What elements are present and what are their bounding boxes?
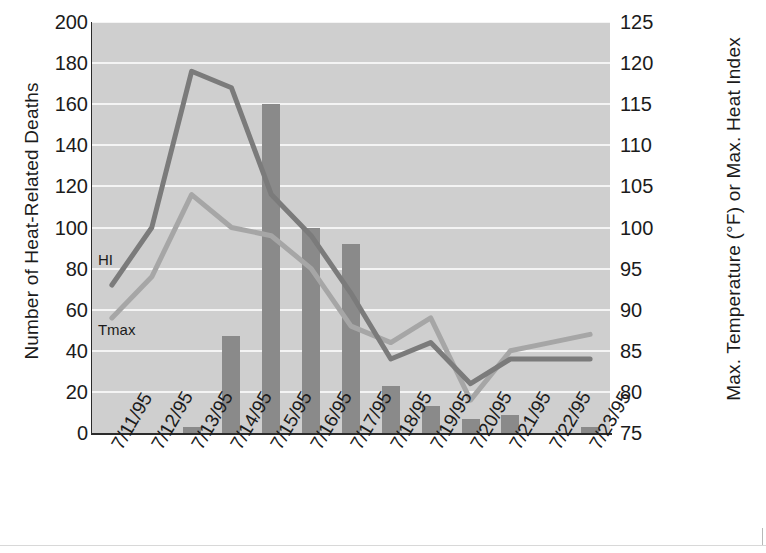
right-axis-tick-labels: 7580859095100105110115120125 <box>620 0 680 553</box>
page-bottom-rule <box>0 545 766 546</box>
line-series-layer <box>92 22 610 433</box>
plot-area: HI Tmax <box>92 22 610 433</box>
left-tick-60: 60 <box>66 300 88 320</box>
hi-series-label: HI <box>98 251 113 268</box>
right-tick-105: 105 <box>620 176 653 196</box>
left-tick-40: 40 <box>66 341 88 361</box>
right-axis-title: Max. Temperature (°F) or Max. Heat Index <box>723 19 745 419</box>
right-tick-125: 125 <box>620 12 653 32</box>
right-tick-90: 90 <box>620 300 642 320</box>
left-tick-160: 160 <box>55 94 88 114</box>
right-tick-95: 95 <box>620 259 642 279</box>
left-tick-100: 100 <box>55 218 88 238</box>
left-tick-180: 180 <box>55 53 88 73</box>
right-tick-110: 110 <box>620 135 652 155</box>
left-tick-0: 0 <box>77 423 88 443</box>
right-tick-85: 85 <box>620 341 642 361</box>
hi-line <box>112 71 590 383</box>
right-tick-115: 115 <box>620 94 652 114</box>
page-bottom-tick <box>762 528 763 545</box>
left-tick-80: 80 <box>66 259 88 279</box>
tmax-series-label: Tmax <box>98 321 136 338</box>
left-tick-140: 140 <box>55 135 88 155</box>
right-tick-120: 120 <box>620 53 653 73</box>
right-tick-75: 75 <box>620 423 642 443</box>
right-tick-100: 100 <box>620 218 653 238</box>
left-tick-120: 120 <box>55 176 88 196</box>
heat-deaths-chart-figure: Number of Heat-Related Deaths Max. Tempe… <box>0 0 766 553</box>
x-axis-tick-labels: 7/11/957/12/957/13/957/14/957/15/957/16/… <box>92 435 610 553</box>
left-axis-tick-labels: 020406080100120140160180200 <box>30 0 88 553</box>
left-tick-200: 200 <box>55 12 88 32</box>
left-tick-20: 20 <box>66 382 88 402</box>
